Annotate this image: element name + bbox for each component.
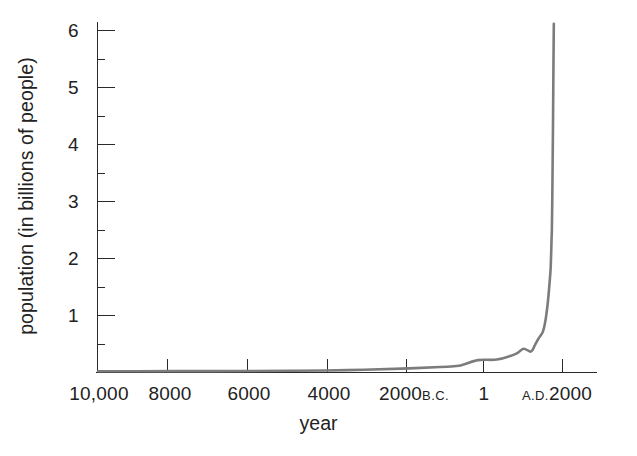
- y-tick-label-4: 4: [68, 134, 79, 156]
- x-tick-label-2000bc-value: 2000: [379, 383, 422, 404]
- x-tick-label-8000bc: 8000: [148, 383, 191, 405]
- y-tick-label-2: 2: [68, 248, 79, 270]
- x-axis-title: year: [0, 412, 637, 435]
- x-tick-label-2000ad: A.D.2000: [522, 383, 592, 405]
- x-tick-label-10000bc: 10,000: [69, 383, 128, 405]
- x-tick-label-6000bc: 6000: [227, 383, 270, 405]
- x-tick-label-year1: 1: [479, 383, 490, 405]
- population-curve: [98, 24, 554, 371]
- era-tag-bc: B.C.: [422, 388, 449, 403]
- y-tick-label-5: 5: [68, 77, 79, 99]
- x-tick-label-2000ad-value: 2000: [549, 383, 592, 404]
- era-tag-ad: A.D.: [522, 388, 549, 403]
- y-tick-label-3: 3: [68, 191, 79, 213]
- y-axis-title: population (in billions of people): [15, 57, 37, 335]
- x-tick-label-4000bc: 4000: [307, 383, 350, 405]
- population-growth-chart: population (in billions of people): [0, 0, 637, 456]
- x-tick-label-2000bc: 2000B.C.: [379, 383, 449, 405]
- y-tick-label-1: 1: [68, 305, 79, 327]
- y-tick-label-6: 6: [68, 20, 79, 42]
